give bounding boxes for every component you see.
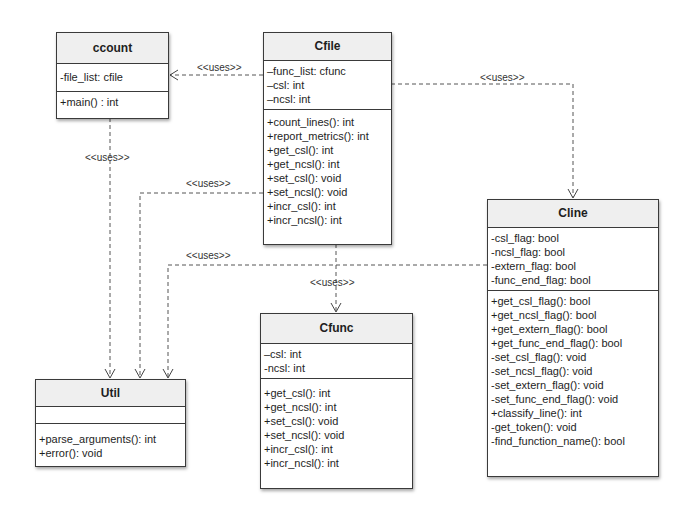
uses-label-cfile-util: <<uses>> (186, 178, 230, 189)
uses-edge-cfile-cline (391, 84, 573, 197)
method: +incr_ncsl(): int (267, 213, 388, 227)
class-util[interactable]: Util +parse_arguments(): int +error(): v… (35, 379, 186, 467)
method: +classify_line(): int (491, 406, 655, 420)
method: +count_lines(): int (267, 115, 388, 129)
methods-section: +main() : int (57, 92, 168, 112)
attribute: –func_list: cfunc (267, 64, 388, 78)
method: +get_csl_flag(): bool (491, 294, 655, 308)
method: +incr_csl(): int (264, 442, 409, 456)
method: +get_ncsl_flag(): bool (491, 308, 655, 322)
method: -get_token(): void (491, 420, 655, 434)
class-cfunc[interactable]: Cfunc –csl: int -ncsl: int +get_csl(): i… (260, 313, 413, 489)
attributes-section (36, 407, 185, 424)
attribute: -file_list: cfile (60, 67, 165, 81)
attribute: –csl: int (267, 78, 388, 92)
uses-label-ccount-util: <<uses>> (85, 152, 129, 163)
uses-label-cfile-cfunc: <<uses>> (310, 277, 354, 288)
attribute: -extern_flag: bool (491, 259, 655, 273)
method: -find_function_name(): bool (491, 434, 655, 448)
attributes-section: -file_list: cfile (57, 64, 168, 92)
class-ccount[interactable]: ccount -file_list: cfile +main() : int (56, 32, 169, 119)
attribute: -ncsl: int (264, 361, 409, 375)
class-cfile[interactable]: Cfile –func_list: cfunc –csl: int –ncsl:… (263, 32, 392, 245)
uses-label-cfile-ccount: <<uses>> (197, 62, 241, 73)
class-name: Cline (488, 200, 658, 228)
method: +incr_csl(): int (267, 199, 388, 213)
class-name: Cfile (264, 33, 391, 61)
methods-section: +get_csl(): int +get_ncsl(): int +set_cs… (261, 379, 412, 473)
method: +get_ncsl(): int (264, 400, 409, 414)
methods-section: +get_csl_flag(): bool +get_ncsl_flag(): … (488, 291, 658, 451)
attributes-section: -csl_flag: bool -ncsl_flag: bool -extern… (488, 228, 658, 291)
uses-label-cfile-cline: <<uses>> (480, 72, 524, 83)
attributes-section: –func_list: cfunc –csl: int –ncsl: int (264, 61, 391, 110)
method: +set_csl(): void (264, 414, 409, 428)
method: +parse_arguments(): int (39, 432, 182, 446)
method: +error(): void (39, 446, 182, 460)
method: +incr_ncsl(): int (264, 456, 409, 470)
method: +report_metrics(): int (267, 129, 388, 143)
attribute: –ncsl: int (267, 92, 388, 106)
method: +get_func_end_flag(): bool (491, 336, 655, 350)
methods-section: +parse_arguments(): int +error(): void (36, 424, 185, 463)
attribute: -ncsl_flag: bool (491, 245, 655, 259)
method: +get_csl(): int (264, 386, 409, 400)
method: +set_csl(): void (267, 171, 388, 185)
method: -set_ncsl_flag(): void (491, 364, 655, 378)
attributes-section: –csl: int -ncsl: int (261, 344, 412, 379)
methods-section: +count_lines(): int +report_metrics(): i… (264, 110, 391, 230)
class-name: ccount (57, 33, 168, 64)
method: +set_ncsl(): void (267, 185, 388, 199)
uses-label-cline-util: <<uses>> (186, 250, 230, 261)
method: -set_csl_flag(): void (491, 350, 655, 364)
method: +get_ncsl(): int (267, 157, 388, 171)
class-name: Util (36, 380, 185, 407)
method: +main() : int (60, 95, 165, 109)
class-cline[interactable]: Cline -csl_flag: bool -ncsl_flag: bool -… (487, 199, 659, 477)
attribute: -csl_flag: bool (491, 231, 655, 245)
method: +set_ncsl(): void (264, 428, 409, 442)
attribute: –csl: int (264, 347, 409, 361)
attribute: -func_end_flag: bool (491, 273, 655, 287)
method: +get_csl(): int (267, 143, 388, 157)
method: -set_func_end_flag(): void (491, 392, 655, 406)
uses-edge-cfile-util (140, 193, 263, 377)
class-name: Cfunc (261, 314, 412, 344)
method: +get_extern_flag(): bool (491, 322, 655, 336)
method: -set_extern_flag(): void (491, 378, 655, 392)
